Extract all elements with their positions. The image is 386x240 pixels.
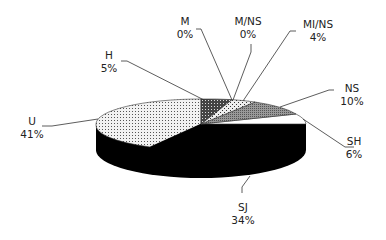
label-MNS-name: M/NS [223,15,273,28]
label-SH: SH 6% [329,135,379,161]
label-NS-pct: 10% [327,95,377,108]
label-H-pct: 5% [84,62,134,75]
label-SJ-pct: 34% [218,214,268,227]
leader-NS [280,90,334,107]
label-MINS-pct: 4% [293,31,343,44]
leader-SJ [242,176,250,193]
label-MNS: M/NS 0% [223,15,273,41]
label-NS-name: NS [327,82,377,95]
leader-MNS [233,44,251,100]
label-SJ: SJ 34% [218,201,268,227]
label-M-pct: 0% [160,28,210,41]
label-NS: NS 10% [327,82,377,108]
label-M-name: M [160,15,210,28]
label-SH-name: SH [329,135,379,148]
label-SH-pct: 6% [329,148,379,161]
leader-MINS [243,31,296,101]
label-M: M 0% [160,15,210,41]
label-H-name: H [84,49,134,62]
label-U-pct: 41% [7,128,57,141]
label-MINS-name: MI/NS [293,18,343,31]
label-U-name: U [7,115,57,128]
label-MINS: MI/NS 4% [293,18,343,44]
label-H: H 5% [84,49,134,75]
label-U: U 41% [7,115,57,141]
pie-top [96,99,306,150]
label-MNS-pct: 0% [223,28,273,41]
label-SJ-name: SJ [218,201,268,214]
